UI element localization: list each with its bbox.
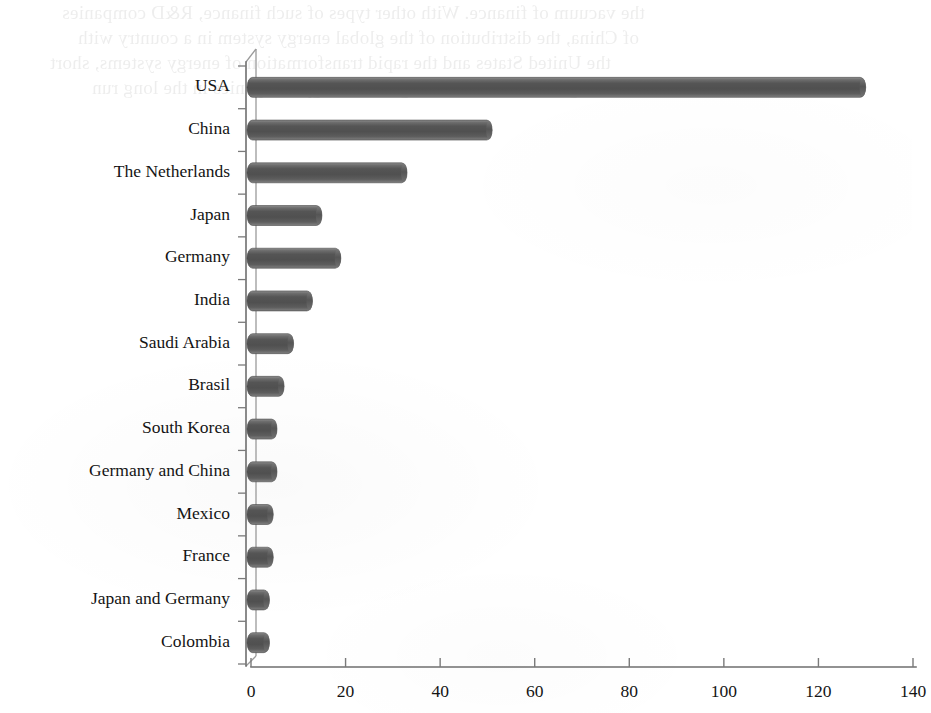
- x-axis: [251, 658, 916, 667]
- y-axis-tick-label: Mexico: [177, 503, 231, 523]
- chart-canvas: USAChinaThe NetherlandsJapanGermanyIndia…: [40, 16, 931, 713]
- bar-end-cap: [263, 591, 269, 609]
- x-axis-tick-labels: 020406080100120140: [247, 681, 927, 701]
- y-axis-tick-label: Saudi Arabia: [139, 332, 230, 352]
- bar: [247, 120, 492, 140]
- y-axis-ticks: [238, 66, 246, 664]
- x-axis-tick-label: 60: [526, 681, 544, 701]
- y-axis-tick-label: Brasil: [188, 374, 230, 394]
- bar-end-cap: [486, 121, 492, 139]
- x-axis-tick-label: 20: [337, 681, 355, 701]
- y-axis-tick-label: South Korea: [142, 417, 230, 437]
- bar-end-cap: [316, 206, 322, 224]
- bar-series: [247, 77, 866, 652]
- y-axis-tick-label: China: [188, 118, 230, 138]
- y-axis-tick-label: India: [194, 289, 230, 309]
- bar: [247, 334, 294, 354]
- bar-end-cap: [267, 548, 273, 566]
- y-axis-tick-label: Colombia: [161, 631, 230, 651]
- y-axis-tick-label: Germany and China: [89, 460, 230, 480]
- bar-end-cap: [271, 463, 277, 481]
- horizontal-bar-chart: USAChinaThe NetherlandsJapanGermanyIndia…: [40, 16, 872, 697]
- bar-end-cap: [288, 334, 294, 352]
- bar-end-cap: [271, 420, 277, 438]
- bar: [247, 206, 322, 226]
- bar: [247, 248, 341, 268]
- bar-end-cap: [263, 633, 269, 651]
- y-axis-tick-label: France: [182, 545, 230, 565]
- y-axis-tick-label: Japan: [190, 204, 230, 224]
- x-axis-tick-label: 80: [621, 681, 639, 701]
- x-axis-tick-label: 0: [247, 681, 256, 701]
- x-axis-tick-label: 40: [431, 681, 449, 701]
- axis-depth-guides: [246, 49, 256, 666]
- bar-end-cap: [306, 292, 312, 310]
- x-axis-tick-label: 140: [900, 681, 927, 701]
- x-axis-tick-label: 100: [711, 681, 738, 701]
- x-axis-tick-label: 120: [805, 681, 832, 701]
- y-axis-tick-labels: USAChinaThe NetherlandsJapanGermanyIndia…: [89, 75, 230, 650]
- bar-end-cap: [267, 505, 273, 523]
- bar-end-cap: [401, 164, 407, 182]
- y-axis-tick-label: USA: [195, 75, 230, 95]
- y-axis: [238, 62, 246, 666]
- bar-end-cap: [335, 249, 341, 267]
- y-axis-tick-label: The Netherlands: [114, 161, 230, 181]
- bar-end-cap: [278, 377, 284, 395]
- y-axis-tick-label: Germany: [165, 246, 230, 266]
- bar: [247, 77, 866, 97]
- x-axis-ticks: [251, 658, 913, 667]
- y-axis-tick-label: Japan and Germany: [91, 588, 230, 608]
- bar: [247, 163, 407, 183]
- bar-end-cap: [860, 78, 866, 96]
- bar: [247, 291, 312, 311]
